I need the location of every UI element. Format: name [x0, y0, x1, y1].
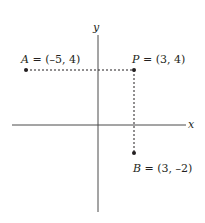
point-p [132, 68, 136, 72]
coordinate-plane: x y A = (–5, 4) P = (3, 4) B = (3, –2) [0, 0, 205, 223]
y-axis-label: y [92, 21, 100, 34]
x-axis-label: x [188, 118, 195, 131]
point-b [132, 151, 136, 155]
point-a [24, 68, 28, 72]
point-b-label: B = (3, –2) [132, 162, 192, 175]
point-p-label: P = (3, 4) [131, 53, 185, 66]
point-a-label: A = (–5, 4) [20, 53, 80, 66]
